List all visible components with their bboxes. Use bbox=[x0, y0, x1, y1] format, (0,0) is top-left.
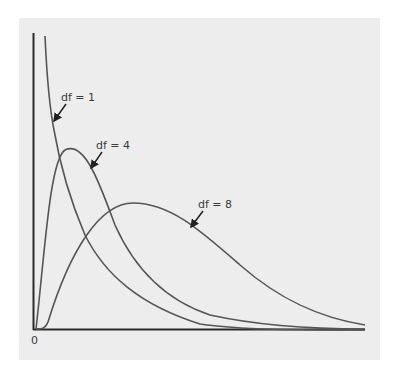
curve-df4 bbox=[36, 149, 365, 329]
chi-square-chart: df = 1 df = 4 df = 8 0 bbox=[0, 0, 396, 374]
label-df4: df = 4 bbox=[96, 139, 130, 152]
x-tick-origin: 0 bbox=[31, 334, 38, 347]
label-df8: df = 8 bbox=[198, 198, 232, 211]
arrow-df8-icon bbox=[191, 211, 203, 227]
label-df1: df = 1 bbox=[61, 91, 95, 104]
curve-df8 bbox=[36, 203, 365, 329]
arrow-df1-icon bbox=[54, 104, 66, 121]
curve-df1 bbox=[45, 36, 365, 330]
arrow-df4-icon bbox=[91, 152, 102, 168]
